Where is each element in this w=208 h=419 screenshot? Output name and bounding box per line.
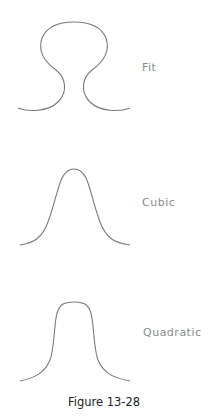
quadratic-label: Quadratic xyxy=(143,326,202,339)
quadratic-curve xyxy=(20,302,130,381)
figure-drawing xyxy=(0,0,208,419)
cubic-curve xyxy=(20,169,130,245)
figure-caption: Figure 13-28 xyxy=(0,395,208,409)
cubic-label: Cubic xyxy=(142,196,175,209)
fit-curve xyxy=(18,22,130,110)
fit-label: Fit xyxy=(142,61,156,74)
